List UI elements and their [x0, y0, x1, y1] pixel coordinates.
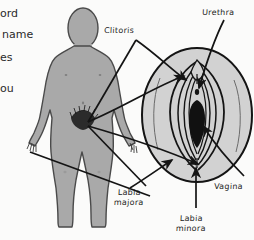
label-clitoris: Clitoris [104, 26, 135, 36]
label-urethra: Urethra [202, 8, 235, 18]
leader-labia-majora [130, 160, 172, 188]
label-labia-minora-line1: Labia [180, 214, 204, 223]
label-labia-majora-line1: Labia [118, 188, 142, 197]
figure-knee-right [97, 171, 100, 173]
label-labia-minora: Labia minora [167, 214, 214, 234]
vulva-diagram [142, 48, 252, 182]
label-vagina: Vagina [214, 182, 243, 192]
figure-nipple-left [65, 74, 68, 76]
label-labia-majora-line2: majora [114, 198, 144, 207]
figure-knee-left [63, 171, 66, 173]
figure-nipple-right [99, 74, 102, 76]
label-labia-minora-line2: minora [176, 224, 206, 233]
figure-navel [82, 102, 84, 105]
label-labia-majora: Labia majora [105, 188, 152, 208]
figure-head [68, 8, 98, 48]
urethral-opening [195, 89, 199, 95]
diagram-canvas: ord name es ou [0, 0, 254, 240]
